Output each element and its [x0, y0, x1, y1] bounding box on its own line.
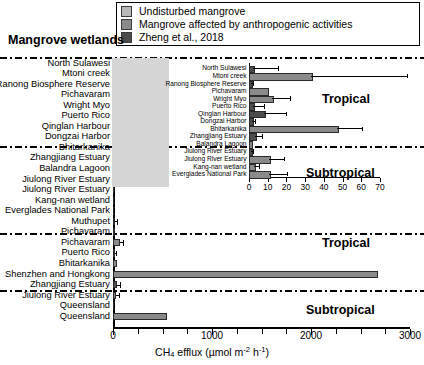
legend-label-undisturbed: Undisturbed mangrove: [139, 6, 245, 17]
inset-error-bar: [251, 83, 254, 84]
main-x-tick-label: 2000: [300, 330, 322, 341]
main-error-bar: [114, 200, 115, 201]
main-bar-label: Pichavaram: [61, 226, 110, 237]
main-error-bar: [114, 190, 115, 191]
inset-error-bar: [337, 128, 363, 129]
main-bar: [113, 313, 167, 320]
inset-x-tick-label: 40: [319, 182, 328, 192]
inset-error-bar: [255, 136, 262, 137]
main-bar-label: Pichavaram: [61, 237, 110, 248]
inset-x-tick-label: 70: [375, 182, 384, 192]
main-bar-label: Zhangjiang Estuary: [30, 152, 110, 163]
legend-item-undisturbed: Undisturbed mangrove: [121, 5, 415, 18]
main-x-tick: [385, 329, 386, 334]
main-x-tick: [163, 329, 164, 334]
inset-bar-row: Zhangjiang Estuary: [249, 133, 380, 140]
main-bar-label: Mtoni creek: [62, 68, 110, 79]
legend-swatch-undisturbed: [121, 6, 132, 17]
main-bar: [113, 271, 378, 278]
inset-bar-row: Dongzai Harbor: [249, 118, 380, 125]
main-bar: [113, 260, 117, 267]
inset-error-bar: [251, 151, 254, 152]
main-bar-row: Muthupet: [113, 217, 410, 226]
main-bar-label: Dongzai Harbor: [45, 131, 110, 142]
inset-x-tick-label: 50: [338, 182, 347, 192]
inset-x-tick-label: 30: [300, 182, 309, 192]
inset-bar-row: Everglades National Park: [249, 171, 380, 178]
x-axis-caption-mid2: h: [250, 346, 259, 358]
main-bar-label: North Sulawesi: [47, 58, 110, 69]
main-bar-label: Puerto Rico: [61, 247, 110, 258]
main-error-bar: [114, 211, 115, 212]
main-x-tick: [138, 329, 139, 334]
inset-x-tick-label: 10: [263, 182, 272, 192]
inset-error-bar: [252, 121, 256, 122]
main-error-bar: [120, 242, 125, 243]
inset-background-panel: [112, 58, 169, 187]
zone-label-tropical-main: Tropical: [322, 236, 370, 250]
main-bar-label: Balandra Lagoon: [39, 163, 110, 174]
main-bar-row: Kang-nan wetland: [113, 196, 410, 205]
main-x-tick-label: 0: [110, 330, 116, 341]
main-bar-label: Qinglan Harbour: [42, 121, 110, 132]
main-bar-label: Muthupet: [71, 216, 110, 227]
main-bar-label: Kang-nan wetland: [35, 195, 110, 206]
x-axis-caption-pre: CH: [155, 346, 170, 358]
divider-inset-bottom: [0, 233, 424, 235]
main-bar-label: Jiulong River Estuary: [22, 184, 110, 195]
main-bar-label: Wright Myo: [63, 100, 110, 111]
main-x-tick-label: 3000: [399, 330, 421, 341]
chart-legend: Undisturbed mangrove Mangrove affected b…: [116, 2, 420, 46]
main-bar-label: Ranong Biosphere Reserve: [0, 79, 110, 90]
x-axis-caption-sup1: -2: [243, 345, 250, 354]
main-error-bar: [115, 221, 117, 222]
legend-swatch-affected: [121, 19, 132, 30]
main-error-bar: [116, 295, 120, 296]
inset-bar-row: Jiulong River Estuary: [249, 156, 380, 163]
main-bar-row: Jiulong River Estuary: [113, 291, 410, 300]
page-title: Mangrove wetlands: [8, 33, 124, 47]
main-bar-label: Everglades National Park: [5, 205, 110, 216]
inset-x-tick-label: 0: [247, 182, 252, 192]
inset-bar-row: Ranong Biosphere Reserve: [249, 80, 380, 87]
legend-label-affected: Mangrove affected by anthropogenic activ…: [139, 19, 352, 30]
x-axis-caption-mid: efflux (µmol m: [174, 346, 243, 358]
zone-label-subtropical-main: Subtropical: [306, 303, 375, 317]
main-bar-label: Jiulong River Estuary: [22, 174, 110, 185]
inset-bar-row: Mtoni creek: [249, 73, 380, 80]
main-bar-label: Zhangjiang Estuary: [30, 279, 110, 290]
inset-bar-label: Everglades National Park: [172, 169, 246, 178]
main-bar-row: Zhangjiang Estuary: [113, 281, 410, 290]
inset-bar-row: Wright Myo: [249, 95, 380, 102]
main-bar-label: Bhitarkanika: [59, 258, 110, 269]
inset-bar-row: Jiulong River Estuary: [249, 148, 380, 155]
main-bar-label: Queensland: [60, 311, 110, 322]
inset-bar-row: Pichavaram: [249, 88, 380, 95]
inset-error-bar: [264, 113, 286, 114]
inset-bar-row: Bhitarkanika: [249, 125, 380, 132]
main-x-tick: [336, 329, 337, 334]
inset-error-bar: [269, 159, 285, 160]
inset-chart: 010203040506070 North SulawesiMtoni cree…: [112, 58, 382, 187]
inset-bar-row: Qinglan Harbour: [249, 110, 380, 117]
inset-bar-row: Balandra Lagoon: [249, 141, 380, 148]
legend-item-zheng: Zheng et al., 2018: [121, 31, 415, 44]
x-axis-caption-post: ): [265, 346, 269, 358]
x-axis-caption: CH4 efflux (µmol m-2 h-1): [0, 345, 424, 359]
main-error-bar: [117, 285, 121, 286]
main-bar-label: Shenzhen and Hongkong: [5, 269, 110, 280]
main-bar-row: Everglades National Park: [113, 207, 410, 216]
main-x-tick: [237, 329, 238, 334]
main-error-bar: [114, 306, 115, 307]
main-bar-label: Puerto Rico: [61, 110, 110, 121]
inset-error-bar: [269, 174, 288, 175]
inset-error-bar: [254, 166, 261, 167]
divider-tropical-subtropical-main: [0, 290, 424, 292]
legend-item-affected: Mangrove affected by anthropogenic activ…: [121, 18, 415, 31]
inset-x-tick-label: 20: [282, 182, 291, 192]
inset-bar: [249, 171, 271, 179]
main-bar-row: Shenzhen and Hongkong: [113, 270, 410, 279]
inset-plot-area: 010203040506070 North SulawesiMtoni cree…: [249, 63, 382, 182]
inset-error-bar: [253, 106, 264, 107]
main-x-tick: [361, 329, 362, 334]
